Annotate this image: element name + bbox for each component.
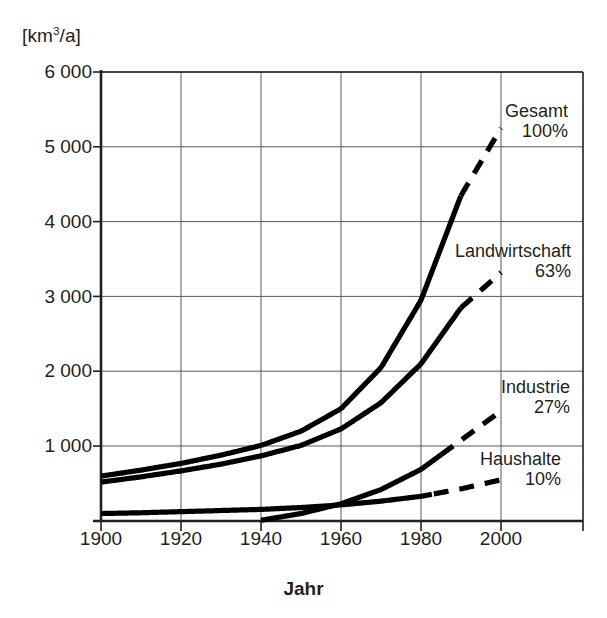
y-tick-label-4000: 4 000: [6, 211, 92, 233]
series-label-landwirtschaft: Landwirtschaft: [455, 241, 571, 261]
curve-landwirtschaft-solid: [101, 308, 461, 482]
series-label-gesamt: Gesamt: [505, 101, 568, 121]
y-tick-label-2000: 2 000: [6, 360, 92, 382]
series-share-haushalte: 10%: [480, 469, 561, 489]
y-axis-tick-labels: 1 0002 0003 0004 0005 0006 000: [0, 0, 92, 618]
series-label-industrie: Industrie: [501, 377, 570, 397]
y-tick-label-3000: 3 000: [6, 286, 92, 308]
series-share-industrie: 27%: [501, 397, 570, 417]
y-tick-label-6000: 6 000: [6, 61, 92, 83]
x-axis-title: Jahr: [0, 578, 607, 600]
y-tick-label-5000: 5 000: [6, 136, 92, 158]
y-tick-label-1000: 1 000: [6, 435, 92, 457]
x-tick-label-1960: 1960: [320, 528, 362, 550]
series-curves: [101, 128, 501, 520]
curve-haushalte-solid: [101, 494, 432, 513]
x-tick-label-2000: 2000: [480, 528, 522, 550]
series-annotation-industrie: Industrie 27%: [501, 377, 570, 417]
x-tick-label-1900: 1900: [80, 528, 122, 550]
series-label-haushalte: Haushalte: [480, 449, 561, 469]
series-annotation-haushalte: Haushalte 10%: [480, 449, 561, 489]
x-tick-label-1940: 1940: [240, 528, 282, 550]
series-annotation-landwirtschaft: Landwirtschaft 63%: [455, 241, 571, 281]
curve-gesamt-solid: [101, 196, 461, 476]
x-tick-label-1920: 1920: [160, 528, 202, 550]
x-tick-label-1980: 1980: [400, 528, 442, 550]
curve-gesamt-projected: [461, 128, 501, 196]
series-share-landwirtschaft: 63%: [455, 261, 571, 281]
series-share-gesamt: 100%: [505, 121, 568, 141]
series-annotation-gesamt: Gesamt 100%: [505, 101, 568, 141]
water-usage-line-chart: [km3/a]: [0, 0, 607, 618]
